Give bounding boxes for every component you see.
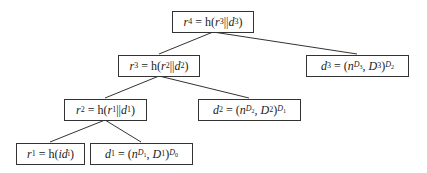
text: ) bbox=[70, 147, 74, 162]
text: = h( bbox=[192, 15, 215, 30]
text: = ( bbox=[331, 59, 348, 74]
node-r1: r1 = h(idi) bbox=[16, 143, 85, 165]
var: D bbox=[369, 59, 378, 74]
edge-r4-r3 bbox=[159, 32, 213, 54]
node-d2: d2 = (nD2, D2)D1 bbox=[198, 99, 301, 121]
edge-r4-d3 bbox=[213, 32, 357, 54]
text: = h( bbox=[36, 147, 59, 162]
node-r2: r2 = h(r1||d1) bbox=[64, 99, 147, 121]
text: ) bbox=[131, 103, 135, 118]
edge-r3-d2 bbox=[159, 76, 249, 98]
edge-r2-d1 bbox=[105, 120, 141, 142]
subscript: 0 bbox=[175, 152, 178, 158]
edge-r3-r2 bbox=[105, 76, 159, 98]
var: D bbox=[261, 103, 270, 118]
node-d1: d1 = (nD1, D1)D0 bbox=[90, 143, 193, 165]
subscript: D0 bbox=[169, 153, 178, 155]
node-d3: d3 = (nD3, D3)D2 bbox=[306, 55, 409, 77]
subscript: 1 bbox=[283, 108, 286, 114]
var: r bbox=[161, 59, 166, 74]
text: = ( bbox=[115, 147, 132, 162]
text: ) bbox=[184, 59, 188, 74]
var: id bbox=[58, 147, 67, 162]
node-r3: r3 = h(r2||d2) bbox=[118, 55, 200, 77]
subscript: D2 bbox=[385, 65, 394, 67]
var: r bbox=[27, 147, 32, 162]
text: = ( bbox=[223, 103, 240, 118]
subscript: D1 bbox=[277, 109, 286, 111]
var: r bbox=[215, 15, 220, 30]
node-r4: r4 = h(r3||d3) bbox=[172, 11, 254, 33]
text: = h( bbox=[85, 103, 108, 118]
var: D bbox=[153, 147, 162, 162]
var: r bbox=[76, 103, 81, 118]
subscript: D3 bbox=[354, 65, 363, 67]
text: = h( bbox=[138, 59, 161, 74]
text: ) bbox=[238, 15, 242, 30]
edge-r2-r1 bbox=[50, 120, 105, 142]
subscript: 2 bbox=[391, 64, 394, 70]
subscript: D2 bbox=[246, 109, 255, 111]
subscript: D1 bbox=[138, 153, 147, 155]
